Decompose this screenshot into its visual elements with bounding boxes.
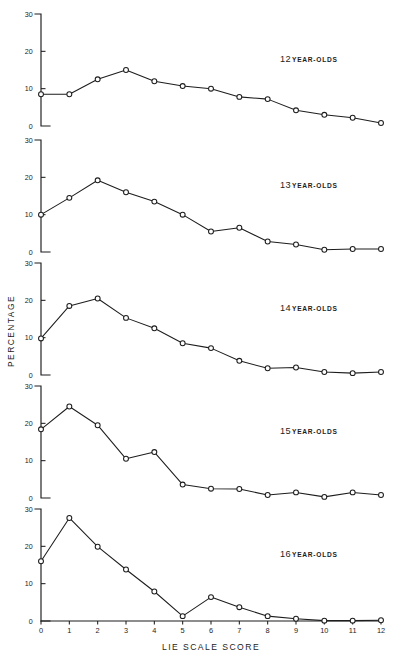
panel-label-number-16: 16 [280, 549, 291, 559]
data-point [237, 225, 242, 230]
data-point [379, 618, 384, 623]
panel-label-number-12: 12 [280, 54, 291, 64]
data-point [322, 247, 327, 252]
data-point [209, 595, 214, 600]
x-tick-label-12: 12 [377, 626, 385, 635]
chart-panel-12: 010203012YEAR-OLDS [25, 11, 384, 131]
y-tick-label-0: 0 [29, 123, 33, 131]
data-point [180, 482, 185, 487]
series-line-15 [41, 407, 381, 497]
data-point [265, 493, 270, 498]
data-point [322, 370, 327, 375]
data-point [294, 616, 299, 621]
series-line-13 [41, 180, 381, 249]
data-point [95, 178, 100, 183]
panel-label-text-12: YEAR-OLDS [292, 56, 338, 63]
chart-panel-15: 010203015YEAR-OLDS [25, 383, 384, 503]
data-point [350, 490, 355, 495]
data-point [265, 239, 270, 244]
x-tick-label-9: 9 [294, 626, 298, 635]
x-tick-label-10: 10 [320, 626, 328, 635]
y-tick-label-10: 10 [25, 580, 33, 588]
data-point [379, 121, 384, 126]
y-tick-label-20: 20 [25, 420, 33, 428]
data-point [39, 212, 44, 217]
data-point [124, 456, 129, 461]
y-tick-label-20: 20 [25, 48, 33, 56]
data-point [350, 247, 355, 252]
data-point [95, 77, 100, 82]
x-tick-label-0: 0 [39, 626, 43, 635]
data-point [67, 404, 72, 409]
data-point [350, 115, 355, 120]
data-point [180, 212, 185, 217]
data-point [152, 199, 157, 204]
data-point [237, 605, 242, 610]
data-point [124, 190, 129, 195]
panel-label-text-14: YEAR-OLDS [292, 305, 338, 312]
y-axis-12 [35, 14, 50, 126]
x-axis-title: LIE SCALE SCORE [162, 642, 260, 652]
data-point [152, 450, 157, 455]
data-point [322, 494, 327, 499]
data-point [237, 94, 242, 99]
data-point [67, 195, 72, 200]
data-point [67, 92, 72, 97]
data-point [265, 614, 270, 619]
y-axis-title: PERCENTAGE [6, 295, 16, 367]
y-tick-label-0: 0 [29, 249, 33, 257]
x-tick-label-8: 8 [266, 626, 270, 635]
data-point [124, 567, 129, 572]
data-point [95, 544, 100, 549]
panel-label-number-13: 13 [280, 180, 291, 190]
y-tick-label-20: 20 [25, 297, 33, 305]
data-point [322, 618, 327, 623]
data-point [124, 68, 129, 73]
data-point [350, 371, 355, 376]
data-point [39, 336, 44, 341]
data-point [294, 365, 299, 370]
data-point [39, 559, 44, 564]
x-tick-label-5: 5 [181, 626, 185, 635]
panel-label-text-13: YEAR-OLDS [292, 182, 338, 189]
panel-label-text-16: YEAR-OLDS [292, 551, 338, 558]
y-tick-label-30: 30 [25, 383, 33, 391]
data-point [152, 326, 157, 331]
data-point [152, 79, 157, 84]
y-tick-label-10: 10 [25, 457, 33, 465]
x-tick-label-11: 11 [349, 626, 357, 635]
data-point [152, 589, 157, 594]
data-point [180, 341, 185, 346]
data-point [350, 618, 355, 623]
panel-label-text-15: YEAR-OLDS [292, 428, 338, 435]
data-point [265, 97, 270, 102]
data-point [67, 516, 72, 521]
data-point [180, 84, 185, 89]
x-tick-label-3: 3 [124, 626, 128, 635]
data-point [379, 247, 384, 252]
data-point [39, 427, 44, 432]
y-tick-label-20: 20 [25, 174, 33, 182]
y-tick-label-30: 30 [25, 506, 33, 514]
y-axis-13 [35, 140, 50, 252]
data-point [237, 358, 242, 363]
data-point [294, 490, 299, 495]
y-tick-label-30: 30 [25, 137, 33, 145]
chart-canvas: 010203012YEAR-OLDS010203013YEAR-OLDS0102… [0, 0, 400, 662]
y-tick-label-0: 0 [29, 495, 33, 503]
x-tick-label-2: 2 [96, 626, 100, 635]
data-point [209, 486, 214, 491]
series-line-12 [41, 70, 381, 123]
y-tick-label-30: 30 [25, 260, 33, 268]
x-tick-label-4: 4 [152, 626, 156, 635]
data-point [379, 493, 384, 498]
series-line-16 [41, 518, 381, 621]
y-tick-label-10: 10 [25, 85, 33, 93]
y-tick-label-0: 0 [29, 618, 33, 626]
panel-label-number-14: 14 [280, 303, 291, 313]
chart-panel-13: 010203013YEAR-OLDS [25, 137, 384, 257]
x-tick-label-7: 7 [237, 626, 241, 635]
data-point [124, 315, 129, 320]
y-tick-label-10: 10 [25, 211, 33, 219]
data-point [294, 108, 299, 113]
